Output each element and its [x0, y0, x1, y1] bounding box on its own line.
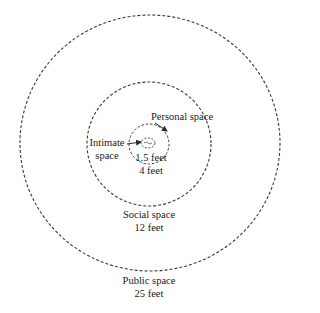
social-space-distance: 12 feet [135, 222, 164, 234]
public-space-distance: 25 feet [135, 288, 164, 300]
intimate-space-label-line1: Intimate [90, 137, 125, 149]
intimate-space-label-line2: space [95, 150, 118, 162]
intimate-space-distance: 1.5 feet [135, 152, 167, 164]
intimate-space-arrow [127, 142, 141, 144]
social-space-label: Social space [123, 209, 175, 221]
public-space-label: Public space [123, 275, 176, 287]
personal-space-distance: 4 feet [139, 165, 163, 177]
personal-space-label: Personal space [151, 111, 213, 123]
personal-space-arrow [155, 123, 167, 131]
person-icon [144, 142, 152, 144]
